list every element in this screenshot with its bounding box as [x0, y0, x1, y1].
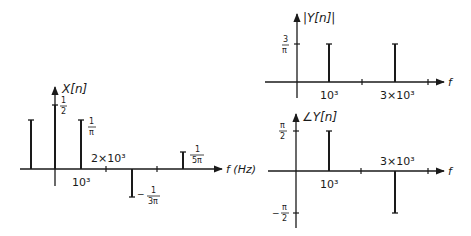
label-neg-3pi-den: 3π: [148, 197, 158, 206]
phase-xlabel: f: [448, 165, 454, 178]
phase-neg-den: 2: [282, 214, 287, 223]
phase-tick-1e3: 10³: [320, 178, 338, 191]
phase-ylabel: ∠Y[n]: [302, 110, 337, 124]
label-inv-pi-den: π: [89, 128, 94, 137]
label-half-den: 2: [61, 107, 66, 116]
label-neg-sign: −: [137, 189, 145, 199]
tick-label-1e3: 10³: [72, 176, 90, 189]
phase-neg-sign: −: [272, 208, 280, 218]
mag-tick-3e3: 3×10³: [380, 89, 415, 102]
label-inv-5pi-num: 1: [195, 145, 200, 154]
phase-pos-num: π: [280, 121, 285, 130]
tick-label-2e3: 2×10³: [91, 152, 126, 165]
mag-xlabel: f: [448, 76, 454, 89]
phase-labels: ∠Y[n] π 2 − π 2 10³ 3×10³ f: [272, 110, 454, 223]
left-plot-labels: X[n] 1 2 1 π 2×10³ 10³ − 1 3π 1 5π f (Hz…: [60, 82, 256, 206]
label-neg-3pi-num: 1: [151, 186, 156, 195]
mag-ylabel: |Y[n]|: [303, 11, 335, 25]
left-spectrum-plot: [20, 87, 222, 197]
phase-tick-3e3: 3×10³: [380, 155, 415, 168]
phase-plot: [268, 114, 444, 228]
magnitude-plot: [265, 14, 444, 98]
label-inv-pi-num: 1: [89, 117, 94, 126]
mag-num: 3: [283, 35, 288, 44]
mag-den: π: [282, 46, 287, 55]
phase-pos-den: 2: [280, 132, 285, 141]
mag-tick-1e3: 10³: [320, 89, 338, 102]
left-xlabel: f (Hz): [226, 163, 256, 176]
label-inv-5pi-den: 5π: [192, 156, 202, 165]
phase-neg-num: π: [282, 203, 287, 212]
left-ylabel: X[n]: [61, 82, 88, 96]
label-half-num: 1: [61, 96, 66, 105]
magnitude-labels: |Y[n]| 3 π 10³ 3×10³ f: [282, 11, 454, 102]
